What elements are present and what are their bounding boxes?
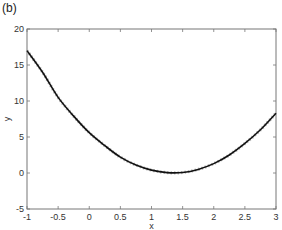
y-tick-label: -5 <box>16 204 24 214</box>
y-tick-label: 5 <box>19 132 24 142</box>
x-tick-label: 3 <box>273 212 278 222</box>
data-line <box>27 51 276 173</box>
x-tick-label: 2 <box>211 212 216 222</box>
data-markers <box>27 51 276 173</box>
x-axis-label: x <box>149 221 154 230</box>
line-chart: -1-0.500.511.522.53-505101520xy <box>0 0 282 230</box>
y-axis-label: y <box>2 116 12 121</box>
y-tick-label: 0 <box>19 168 24 178</box>
x-tick-label: 1.5 <box>176 212 189 222</box>
x-tick-label: -0.5 <box>50 212 66 222</box>
y-tick-label: 15 <box>14 60 24 70</box>
x-tick-label: 0 <box>87 212 92 222</box>
x-tick-label: 0.5 <box>114 212 127 222</box>
x-tick-label: 2.5 <box>239 212 252 222</box>
y-tick-label: 10 <box>14 96 24 106</box>
y-tick-label: 20 <box>14 24 24 34</box>
plot-area-frame <box>27 29 276 209</box>
x-tick-label: -1 <box>23 212 31 222</box>
